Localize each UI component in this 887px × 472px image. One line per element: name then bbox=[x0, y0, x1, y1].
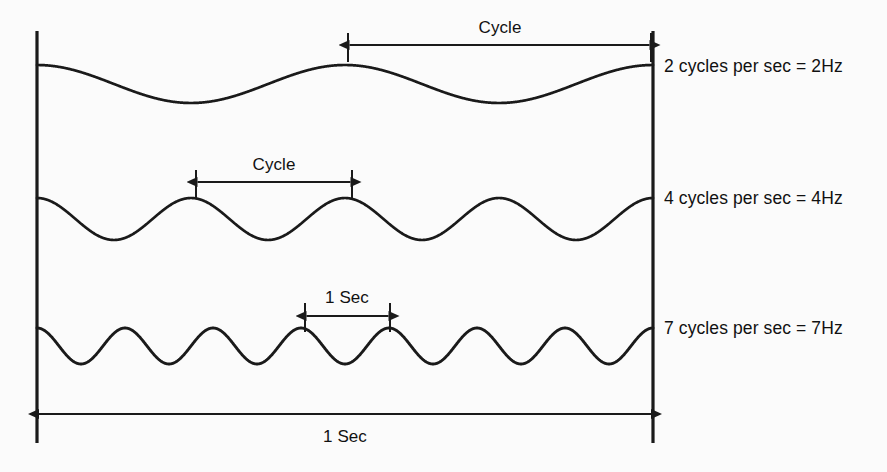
cycle-annotation-label-7hz: 1 Sec bbox=[325, 288, 369, 308]
wave-label-4hz: 4 cycles per sec = 4Hz bbox=[664, 188, 843, 209]
wave-curve-4hz bbox=[37, 198, 653, 240]
wave-curves bbox=[37, 65, 653, 364]
wave-curve-7hz bbox=[37, 328, 653, 364]
cycle-annotations bbox=[196, 33, 651, 332]
axis-span-label: 1 Sec bbox=[323, 427, 367, 447]
cycle-annotation-label-2hz: Cycle bbox=[479, 18, 522, 38]
wave-curve-2hz bbox=[37, 65, 653, 103]
wave-label-2hz: 2 cycles per sec = 2Hz bbox=[664, 56, 843, 77]
wave-label-7hz: 7 cycles per sec = 7Hz bbox=[664, 318, 843, 339]
cycle-annotation-label-4hz: Cycle bbox=[253, 155, 296, 175]
frequency-diagram: 2 cycles per sec = 2Hz 4 cycles per sec … bbox=[0, 0, 887, 472]
